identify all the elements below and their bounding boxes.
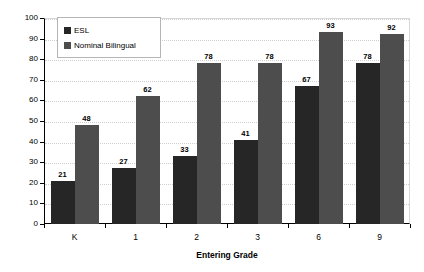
x-tick-label: 1	[106, 232, 166, 242]
x-tick-mark	[44, 224, 45, 228]
bar-value-label: 48	[82, 115, 90, 123]
legend-item-esl: ESL	[64, 23, 160, 38]
x-tick-label: 6	[289, 232, 349, 242]
bar: 33	[173, 156, 197, 224]
bar-value-label: 27	[119, 158, 127, 166]
bar-value-label: 78	[204, 53, 212, 61]
x-tick-label: 2	[167, 232, 227, 242]
bar-chart: % Still LEP after 3 Years 01020304050607…	[0, 0, 424, 272]
chart-legend: ESL Nominal Bilingual	[57, 17, 161, 58]
bar-value-label: 78	[265, 53, 273, 61]
y-tick-label: 0	[0, 220, 38, 228]
y-tick-label: 100	[0, 14, 38, 22]
bar: 93	[319, 32, 343, 224]
x-tick-mark	[227, 224, 228, 228]
y-tick-label: 10	[0, 199, 38, 207]
y-tick-label: 80	[0, 55, 38, 63]
bar: 27	[112, 168, 136, 224]
y-tick-label: 40	[0, 138, 38, 146]
y-tick-label: 50	[0, 117, 38, 125]
bar: 78	[258, 63, 282, 224]
legend-swatch-icon	[64, 42, 71, 49]
legend-label: Nominal Bilingual	[74, 41, 136, 50]
bar-value-label: 93	[326, 22, 334, 30]
bar: 21	[51, 181, 75, 224]
y-tick-label: 30	[0, 158, 38, 166]
bar: 92	[380, 34, 404, 224]
y-tick-label: 70	[0, 76, 38, 84]
bar-value-label: 41	[241, 130, 249, 138]
bar-value-label: 67	[302, 76, 310, 84]
y-tick-label: 90	[0, 35, 38, 43]
bar-group: 3378	[166, 18, 227, 224]
bar: 41	[234, 140, 258, 224]
x-tick-label: 3	[228, 232, 288, 242]
x-axis-title: Entering Grade	[44, 250, 410, 260]
bar-value-label: 92	[387, 24, 395, 32]
bar-value-label: 33	[180, 146, 188, 154]
bar: 67	[295, 86, 319, 224]
bar: 78	[197, 63, 221, 224]
y-tick-label: 60	[0, 96, 38, 104]
bar-value-label: 62	[143, 86, 151, 94]
bar-group: 6793	[288, 18, 349, 224]
legend-label: ESL	[74, 26, 89, 35]
x-tick-label: K	[45, 232, 105, 242]
x-tick-mark	[288, 224, 289, 228]
x-tick-mark	[410, 224, 411, 228]
legend-swatch-icon	[64, 27, 71, 34]
legend-item-nominal-bilingual: Nominal Bilingual	[64, 38, 160, 53]
bar-value-label: 78	[363, 53, 371, 61]
x-tick-mark	[349, 224, 350, 228]
x-tick-mark	[105, 224, 106, 228]
x-tick-label: 9	[350, 232, 410, 242]
bar-group: 4178	[227, 18, 288, 224]
bar: 48	[75, 125, 99, 224]
bar: 62	[136, 96, 160, 224]
bar-value-label: 21	[58, 171, 66, 179]
x-tick-mark	[166, 224, 167, 228]
bar-group: 7892	[349, 18, 410, 224]
bar: 78	[356, 63, 380, 224]
y-tick-label: 20	[0, 179, 38, 187]
